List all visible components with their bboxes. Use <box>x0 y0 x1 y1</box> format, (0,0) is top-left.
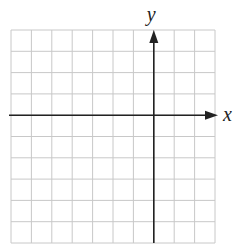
coordinate-grid-diagram: x y <box>0 0 240 250</box>
grid-lines <box>11 30 215 243</box>
x-axis-label: x <box>222 103 232 125</box>
y-axis-label: y <box>145 3 156 26</box>
y-axis-arrowhead-icon <box>149 30 158 43</box>
x-axis-arrowhead-icon <box>205 111 218 120</box>
